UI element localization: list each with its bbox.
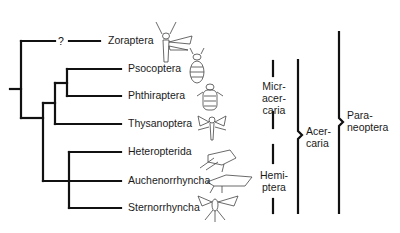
heteropterida-insect-icon	[200, 150, 236, 172]
taxon-zoraptera: Zoraptera	[108, 35, 154, 46]
group-label-line: caria	[306, 137, 331, 149]
taxon-heteropterida: Heteropterida	[128, 146, 192, 157]
cladogram-tree: ?	[0, 0, 400, 233]
group-hemiptera: Hemi- ptera	[259, 169, 289, 193]
group-label-line: acer-	[259, 92, 289, 104]
taxon-psocoptera: Psocoptera	[128, 63, 181, 74]
auchenorrhyncha-insect-icon	[207, 175, 252, 193]
taxon-auchenorrhyncha: Auchenorrhyncha	[128, 175, 210, 186]
taxon-sternorrhyncha: Sternorrhyncha	[128, 202, 200, 213]
taxon-thysanoptera: Thysanoptera	[128, 118, 192, 129]
psocoptera-insect-icon	[190, 48, 204, 83]
group-label-line: caria	[259, 104, 289, 116]
group-micracercaria: Micr- acer- caria	[259, 80, 289, 116]
zoraptera-insect-icon	[156, 22, 192, 62]
group-paraneoptera: Para- neoptera	[347, 109, 388, 133]
group-label-line: Micr-	[259, 80, 289, 92]
group-label-line: Hemi-	[259, 169, 289, 181]
group-label-line: neoptera	[347, 121, 388, 133]
taxon-phthiraptera: Phthiraptera	[128, 90, 185, 101]
sternorrhyncha-insect-icon	[198, 196, 238, 222]
group-label-line: Para-	[347, 109, 388, 121]
phthiraptera-insect-icon	[197, 84, 223, 110]
uncertain-marker: ?	[58, 35, 64, 47]
group-label-line: Acer-	[306, 125, 331, 137]
group-acercaria: Acer- caria	[306, 125, 331, 149]
thysanoptera-insect-icon	[198, 116, 226, 140]
group-label-line: ptera	[259, 181, 289, 193]
